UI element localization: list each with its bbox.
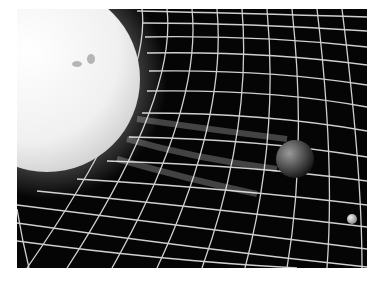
scene-svg (17, 9, 367, 268)
spacetime-illustration (17, 9, 367, 268)
moon (347, 214, 357, 224)
earth (276, 140, 314, 178)
